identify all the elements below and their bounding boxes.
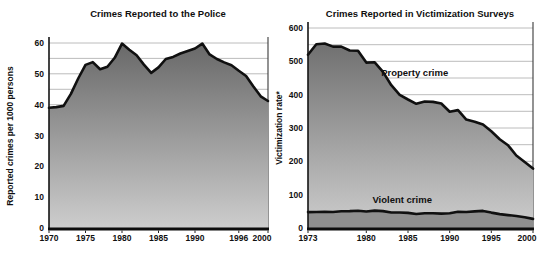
surveys-chart: Crimes Reported in Victimization Surveys… [274,8,537,243]
surveys-chart-ylabel: Victimization rate* [274,91,284,165]
x-tick-label: 1995 [482,233,501,243]
x-tick-label: 1970 [40,233,59,243]
y-tick-label: 200 [289,156,303,166]
y-tick-label: 300 [289,123,303,133]
x-tick-label: 1985 [149,233,168,243]
x-tick-labels: 1970197519801985199019962000 [40,233,272,243]
surveys-chart-plot: 0100200300400500600197319801985199019952… [289,22,537,243]
x-tick-label: 2000 [518,233,537,243]
police-chart: Crimes Reported to the Police Reported c… [5,8,272,243]
x-tick-labels: 197319801985199019952000 [299,233,537,243]
y-tick-label: 40 [35,100,45,110]
y-tick-label: 600 [289,23,303,33]
police-chart-title: Crimes Reported to the Police [90,8,226,19]
x-tick-label: 1973 [299,233,318,243]
police-chart-plot: 0102030405060197019751980198519901996200… [35,37,272,243]
x-tick-label: 1980 [113,233,132,243]
y-tick-label: 0 [39,223,44,233]
x-tick-label: 1985 [399,233,418,243]
y-tick-label: 400 [289,90,303,100]
annotation-violent-crime: Violent crime [372,194,432,205]
y-tick-label: 0 [298,223,303,233]
y-tick-labels: 0100200300400500600 [289,23,303,233]
y-tick-label: 30 [35,131,45,141]
police-chart-ylabel: Reported crimes per 1000 persons [5,66,15,206]
annotation-property-crime: Property crime [381,67,448,78]
y-tick-labels: 0102030405060 [35,38,45,233]
y-tick-label: 500 [289,56,303,66]
x-tick-label: 2000 [253,233,272,243]
x-tick-label: 1990 [186,233,205,243]
x-tick-label: 1996 [229,233,248,243]
x-tick-label: 1975 [76,233,95,243]
dual-crime-charts-figure: Crimes Reported to the Police Reported c… [0,0,542,255]
x-tick-label: 1990 [440,233,459,243]
x-tick-label: 1980 [357,233,376,243]
y-tick-label: 20 [35,161,45,171]
surveys-chart-title: Crimes Reported in Victimization Surveys [326,8,514,19]
y-tick-label: 60 [35,38,45,48]
y-tick-label: 100 [289,190,303,200]
y-tick-label: 50 [35,69,45,79]
y-tick-label: 10 [35,192,45,202]
charts-svg: Crimes Reported to the Police Reported c… [0,0,542,255]
